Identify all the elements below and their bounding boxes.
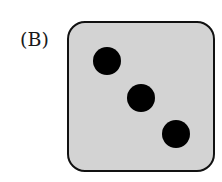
option-label: (B) <box>20 27 49 51</box>
pip-bottom-right <box>162 120 190 148</box>
die-face-three <box>67 21 215 172</box>
pip-center <box>127 84 155 112</box>
pip-top-left <box>93 47 121 75</box>
